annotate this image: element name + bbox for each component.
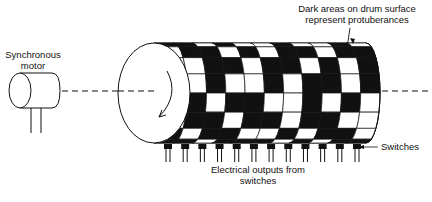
switch [198,144,206,162]
protuberance-cell [263,74,283,93]
protuberance-cell [202,58,224,74]
motor-label-line1: Synchronous [4,49,62,60]
outputs-label-line2: switches [188,175,328,186]
drum-cell [340,74,360,93]
switch [250,144,258,162]
switch [336,144,344,162]
protuberance-cell [318,58,340,74]
switch [216,144,224,162]
switch [181,144,189,162]
drum-cell [283,93,303,112]
switch-array [164,144,361,162]
switch [319,144,327,162]
protuberance-cell [244,93,264,112]
drum-cell [360,93,380,112]
switches-label: Switches [381,141,419,152]
motor-label-line2: motor [4,60,62,71]
synchronous-motor [9,73,60,133]
switch [164,144,172,162]
motor-label: Synchronous motor [4,49,62,71]
drum-cell [280,112,302,128]
drum-cell [337,58,359,74]
switch [284,144,292,162]
protuberance-cell [260,112,282,128]
protuberance-cell [321,74,341,93]
outputs-label: Electrical outputs from switches [188,164,328,186]
drum-cell [225,74,245,93]
protuberance-cell [241,112,263,128]
drum-cell [299,58,321,74]
protuberance-cell [302,93,322,112]
outputs-label-line1: Electrical outputs from [188,164,328,175]
protuberance-cell [222,58,244,74]
protuberance-cell [302,74,322,93]
switch [301,144,309,162]
protuberance-note: Dark areas on drum surface represent pro… [283,3,431,25]
protuberance-cell [280,58,302,74]
protuberance-cell [202,112,224,128]
drum-cell [357,112,379,128]
protuberance-cell [299,112,321,128]
drum-cell [205,93,225,112]
drum-cell [241,58,263,74]
drum-cell [222,112,244,128]
protuberance-cell [360,74,380,93]
switch [267,144,275,162]
drum-cell [321,93,341,112]
drum-cell [244,74,264,93]
protuberance-cell [225,93,245,112]
protuberance-note-line1: Dark areas on drum surface [283,3,431,14]
protuberance-cell [205,74,225,93]
switch [233,144,241,162]
protuberance-cell [318,112,340,128]
protuberance-cell [340,93,360,112]
drum-end-face [118,43,190,143]
drum-cell [337,112,359,128]
protuberance-cell [260,58,282,74]
protuberance-cell [357,58,379,74]
drum-cell [283,74,303,93]
drum-cell [263,93,283,112]
protuberance-note-line2: represent protuberances [283,14,431,25]
